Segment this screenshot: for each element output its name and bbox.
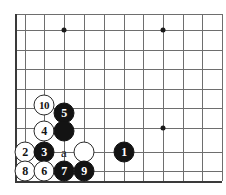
star-point-right-icon (161, 126, 166, 131)
stone-move-2: 2 (15, 142, 36, 163)
stone-move-number: 1 (121, 146, 127, 158)
grid-line-vertical-5 (104, 14, 105, 181)
grid-line-vertical-9 (183, 14, 184, 181)
stone-move-number: 7 (61, 165, 67, 177)
grid-line-vertical-11 (222, 14, 223, 181)
stone-move-number: 6 (41, 165, 47, 177)
stone-move-number: 2 (22, 146, 28, 158)
stone-unnumbered-black-upper (54, 121, 75, 142)
stone-move-number: 5 (61, 107, 67, 119)
grid-line-horizontal-1 (15, 30, 222, 31)
stone-move-6: 6 (34, 161, 55, 182)
stone-move-number: 10 (39, 99, 49, 110)
grid-line-horizontal-3 (15, 69, 222, 70)
star-point-upper-right-icon (161, 28, 166, 33)
grid-line-vertical-8 (163, 14, 164, 181)
stone-move-4: 4 (34, 121, 55, 142)
stone-move-number: 4 (41, 125, 47, 137)
stone-move-3: 3 (34, 142, 55, 163)
star-point-upper-left-icon (62, 28, 67, 33)
grid-line-vertical-7 (143, 14, 144, 181)
stone-move-number: 3 (41, 146, 47, 158)
stone-move-8: 8 (15, 161, 36, 182)
grid-line-horizontal-4 (15, 89, 222, 90)
point-label-a: a (61, 146, 67, 159)
stone-move-10: 10 (34, 95, 55, 116)
stone-move-1: 1 (114, 142, 135, 163)
go-board-diagram: 10542318679a (0, 0, 226, 195)
stone-move-number: 9 (81, 165, 87, 177)
stone-move-7: 7 (54, 161, 75, 182)
stone-unnumbered-white-right (74, 142, 95, 163)
stone-move-9: 9 (74, 161, 95, 182)
grid-line-horizontal-0 (15, 14, 222, 15)
grid-line-vertical-10 (202, 14, 203, 181)
stone-move-number: 8 (22, 165, 28, 177)
grid-line-horizontal-2 (15, 50, 222, 51)
